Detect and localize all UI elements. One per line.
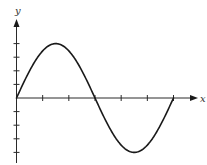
x-axis-arrow-icon [190,95,198,101]
x-axis-label: x [200,93,206,104]
y-axis-arrow-icon [14,19,20,27]
x-axis: x [17,93,207,104]
y-axis-label: y [14,5,21,16]
y-axis: y [14,5,22,163]
sine-chart: x y [0,0,207,165]
